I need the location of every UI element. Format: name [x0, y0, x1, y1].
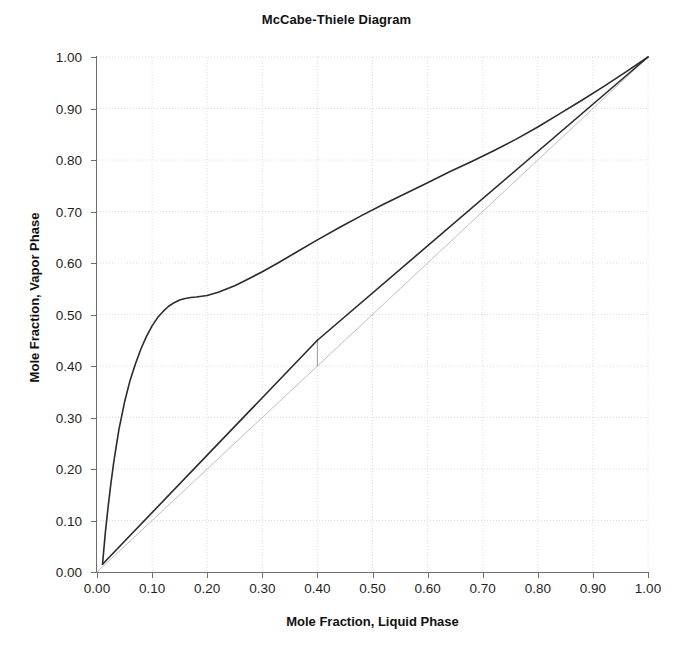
x-tick-mark	[317, 572, 318, 578]
x-tick-label: 0.00	[67, 581, 127, 596]
y-tick-label: 0.60	[36, 256, 82, 271]
y-tick-label: 0.20	[36, 462, 82, 477]
x-tick-label: 0.40	[287, 581, 347, 596]
series-operating-line-stripping	[103, 340, 318, 564]
plot-svg	[97, 57, 648, 572]
x-tick-mark	[262, 572, 263, 578]
y-tick-label: 0.80	[36, 153, 82, 168]
x-tick-mark	[483, 572, 484, 578]
x-tick-label: 0.60	[398, 581, 458, 596]
x-tick-label: 0.30	[232, 581, 292, 596]
x-tick-mark	[207, 572, 208, 578]
x-tick-label: 0.50	[343, 581, 403, 596]
y-tick-label: 0.00	[36, 565, 82, 580]
x-tick-mark	[538, 572, 539, 578]
x-tick-mark	[648, 572, 649, 578]
x-tick-mark	[152, 572, 153, 578]
x-tick-label: 0.80	[508, 581, 568, 596]
y-tick-label: 1.00	[36, 50, 82, 65]
y-tick-label: 0.70	[36, 204, 82, 219]
y-tick-label: 0.50	[36, 307, 82, 322]
x-tick-label: 1.00	[618, 581, 673, 596]
y-tick-label: 0.10	[36, 513, 82, 528]
x-tick-mark	[428, 572, 429, 578]
x-tick-label: 0.10	[122, 581, 182, 596]
x-tick-mark	[593, 572, 594, 578]
y-tick-label-group: 0.000.100.200.300.400.500.600.700.800.90…	[36, 0, 82, 647]
x-tick-mark	[97, 572, 98, 578]
x-tick-label: 0.20	[177, 581, 237, 596]
y-tick-label: 0.30	[36, 410, 82, 425]
chart-title: McCabe-Thiele Diagram	[0, 12, 673, 27]
x-tick-label: 0.70	[453, 581, 513, 596]
plot-area	[97, 57, 648, 572]
y-tick-label: 0.40	[36, 359, 82, 374]
mccabe-thiele-chart: McCabe-Thiele Diagram Mole Fraction, Vap…	[0, 0, 673, 647]
x-tick-label: 0.90	[563, 581, 623, 596]
y-tick-label: 0.90	[36, 101, 82, 116]
x-tick-mark	[373, 572, 374, 578]
x-axis-title: Mole Fraction, Liquid Phase	[97, 614, 648, 629]
